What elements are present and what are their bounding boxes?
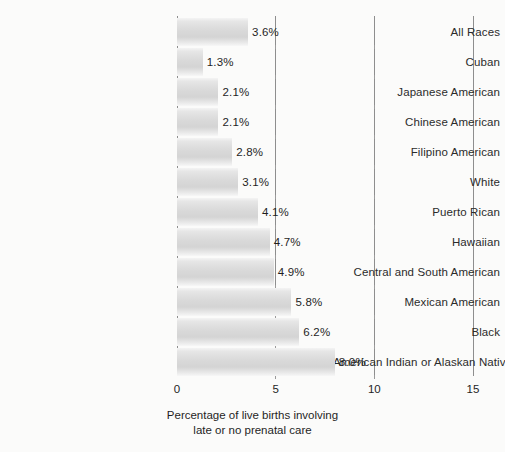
bar-row: Hawaiian4.7% [0, 228, 505, 256]
bar-value-label: 4.7% [274, 228, 301, 256]
x-axis-title-line-1: Percentage of live births involving [0, 408, 505, 423]
bar-value-label: 3.6% [252, 18, 279, 46]
category-label: Filipino American [333, 138, 505, 166]
x-axis-title: Percentage of live births involving late… [0, 408, 505, 438]
x-axis-tick-label: 15 [453, 383, 493, 395]
bar [177, 48, 203, 76]
category-label: All Races [333, 18, 505, 46]
x-axis-tick-label: 0 [157, 383, 197, 395]
bar-value-label: 1.3% [207, 48, 234, 76]
bar-value-label: 6.2% [303, 318, 330, 346]
bar-row: Cuban1.3% [0, 48, 505, 76]
category-label: Hawaiian [333, 228, 505, 256]
bar-row: Filipino American2.8% [0, 138, 505, 166]
category-label: White [333, 168, 505, 196]
bar [177, 198, 258, 226]
bar-value-label: 2.1% [222, 108, 249, 136]
bar [177, 258, 274, 286]
bar [177, 108, 218, 136]
bar-row: Puerto Rican4.1% [0, 198, 505, 226]
bar [177, 18, 248, 46]
bar [177, 318, 299, 346]
category-label: Japanese American [333, 78, 505, 106]
bar-value-label: 4.9% [278, 258, 305, 286]
bar-row: Black6.2% [0, 318, 505, 346]
x-axis-tick-label: 5 [256, 383, 296, 395]
plot-area: All Races3.6%Cuban1.3%Japanese American2… [0, 0, 505, 452]
bar [177, 168, 238, 196]
category-label: Chinese American [333, 108, 505, 136]
category-label: Puerto Rican [333, 198, 505, 226]
bar [177, 228, 270, 256]
bar-chart: All Races3.6%Cuban1.3%Japanese American2… [0, 0, 505, 452]
bar-value-label: 3.1% [242, 168, 269, 196]
category-label: Cuban [333, 48, 505, 76]
bar-row: American Indian or Alaskan Native8.0% [0, 348, 505, 376]
bar-row: Chinese American2.1% [0, 108, 505, 136]
category-label: Mexican American [333, 288, 505, 316]
x-axis-tick-label: 10 [354, 383, 394, 395]
bar-value-label: 2.1% [222, 78, 249, 106]
bar-row: White3.1% [0, 168, 505, 196]
bar-value-label: 4.1% [262, 198, 289, 226]
bar [177, 288, 291, 316]
bar [177, 78, 218, 106]
x-axis-title-line-2: late or no prenatal care [0, 423, 505, 438]
category-label: Black [333, 318, 505, 346]
category-label: Central and South American [333, 258, 505, 286]
bar-row: All Races3.6% [0, 18, 505, 46]
bar-row: Japanese American2.1% [0, 78, 505, 106]
bar-row: Mexican American5.8% [0, 288, 505, 316]
bar-value-label: 8.0% [339, 348, 366, 376]
bar-value-label: 2.8% [236, 138, 263, 166]
bar [177, 138, 232, 166]
bar-row: Central and South American4.9% [0, 258, 505, 286]
bar-value-label: 5.8% [295, 288, 322, 316]
bar [177, 348, 335, 376]
